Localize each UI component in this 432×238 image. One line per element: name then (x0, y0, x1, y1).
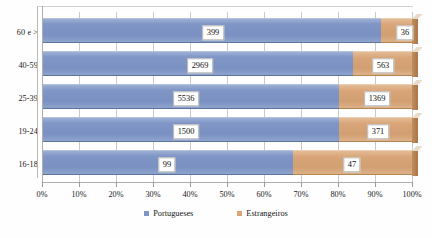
xtick-mark-40 (190, 182, 191, 187)
xtick-mark-20 (116, 182, 117, 187)
stacked-bar-chart: 60 e > 40-59 25-39 19-24 16-18 (0, 0, 432, 238)
bar-row-60-e-mais (42, 18, 412, 43)
y-axis-label-40-59: 40-59 (2, 61, 38, 70)
x-axis-tick-10: 10% (71, 190, 86, 199)
bar-row-40-59 (42, 51, 412, 76)
x-axis-tick-30: 30% (145, 190, 160, 199)
xtick-mark-100 (412, 182, 413, 187)
xtick-mark-50 (227, 182, 228, 187)
xtick-mark-30 (153, 182, 154, 187)
xtick-mark-70 (301, 182, 302, 187)
bar-3d-cap (412, 146, 418, 169)
x-axis-tick-60: 60% (256, 190, 271, 199)
square-marker-blue-icon (144, 211, 149, 216)
data-label-estrangeiros-16-18: 47 (343, 157, 360, 172)
chart-legend: Portugueses Estrangeiros (0, 209, 432, 218)
x-axis-tick-80: 80% (330, 190, 345, 199)
bar-3d-cap (412, 113, 418, 136)
y-axis-label-60-e-mais: 60 e > (2, 28, 38, 37)
legend-label-estrangeiros: Estrangeiros (246, 209, 287, 218)
x-axis-tick-90: 90% (367, 190, 382, 199)
xtick-mark-0 (42, 182, 43, 187)
x-axis-tick-70: 70% (293, 190, 308, 199)
x-axis-tick-0: 0% (37, 190, 48, 199)
y-axis-line (42, 6, 43, 182)
bar-3d-cap (412, 80, 418, 103)
data-label-portugueses-25-39: 5536 (173, 91, 199, 106)
xtick-mark-90 (375, 182, 376, 187)
data-label-portugueses-19-24: 1500 (173, 124, 199, 139)
data-label-portugueses-40-59: 2969 (187, 58, 213, 73)
x-axis-tick-40: 40% (182, 190, 197, 199)
data-label-portugueses-60-e-mais: 399 (202, 25, 224, 40)
y-axis-label-16-18: 16-18 (2, 160, 38, 169)
data-label-estrangeiros-40-59: 563 (372, 58, 394, 73)
bar-3d-cap (412, 47, 418, 70)
legend-item-portugueses: Portugueses (144, 209, 193, 218)
y-axis-label-25-39: 25-39 (2, 94, 38, 103)
xtick-mark-80 (338, 182, 339, 187)
bar-row-25-39 (42, 84, 412, 109)
x-axis-tick-100: 100% (402, 190, 421, 199)
x-axis-tick-20: 20% (108, 190, 123, 199)
data-label-estrangeiros-19-24: 371 (367, 124, 389, 139)
data-label-portugueses-16-18: 99 (158, 157, 175, 172)
data-label-estrangeiros-60-e-mais: 36 (396, 25, 413, 40)
xtick-mark-10 (79, 182, 80, 187)
legend-item-estrangeiros: Estrangeiros (237, 209, 287, 218)
xtick-mark-60 (264, 182, 265, 187)
y-axis-label-19-24: 19-24 (2, 127, 38, 136)
legend-label-portugueses: Portugueses (153, 209, 193, 218)
square-marker-orange-icon (237, 211, 242, 216)
data-label-estrangeiros-25-39: 1369 (364, 91, 390, 106)
x-axis-tick-50: 50% (219, 190, 234, 199)
bar-row-19-24 (42, 117, 412, 142)
